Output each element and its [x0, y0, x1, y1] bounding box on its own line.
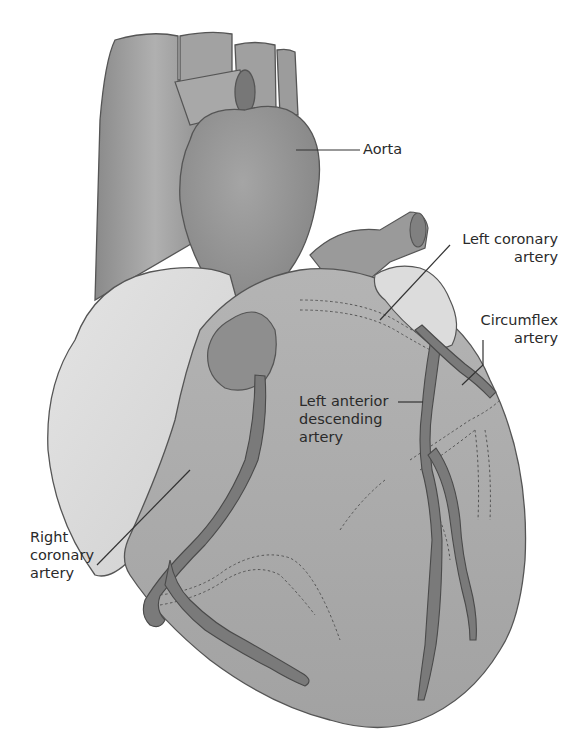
label-rca-line-1: Right — [30, 528, 94, 546]
label-lad-line-2: descending — [299, 410, 388, 428]
heart-diagram — [0, 0, 586, 746]
label-lca-line-2: artery — [440, 248, 558, 266]
vessel-opening — [235, 70, 255, 114]
label-cx-line-2: artery — [470, 329, 558, 347]
label-left-anterior-descending-artery: Left anterior descending artery — [299, 392, 388, 446]
label-right-coronary-artery: Right coronary artery — [30, 528, 94, 582]
label-rca-line-3: artery — [30, 564, 94, 582]
left-subclavian-vessel — [277, 49, 298, 115]
label-cx-line-1: Circumflex — [470, 311, 558, 329]
label-circumflex-artery: Circumflex artery — [470, 311, 558, 347]
label-rca-line-2: coronary — [30, 546, 94, 564]
label-lad-line-1: Left anterior — [299, 392, 388, 410]
label-aorta-line-1: Aorta — [363, 140, 402, 158]
label-lad-line-3: artery — [299, 428, 388, 446]
heart-illustration — [0, 0, 586, 746]
label-left-coronary-artery: Left coronary artery — [440, 230, 558, 266]
label-lca-line-1: Left coronary — [440, 230, 558, 248]
label-aorta: Aorta — [363, 140, 402, 158]
